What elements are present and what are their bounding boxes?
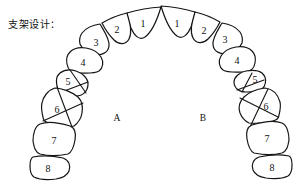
left-tooth-5-label: 5 <box>66 76 71 87</box>
left-tooth-3-label: 3 <box>94 37 99 48</box>
right-quadrant <box>161 6 292 179</box>
side-label-a: A <box>114 113 121 123</box>
right-tooth-5-label: 5 <box>253 74 258 85</box>
left-tooth-4-label: 4 <box>81 57 86 68</box>
right-tooth-1-label: 1 <box>175 18 180 29</box>
left-quadrant <box>30 7 161 180</box>
right-tooth-4-label: 4 <box>235 55 240 66</box>
right-tooth-8-label: 8 <box>270 162 275 173</box>
left-tooth-6-label: 6 <box>55 104 60 115</box>
dental-arch-diagram: 1 2 3 4 5 6 7 8 1 2 3 4 5 6 7 8 A B <box>0 0 303 192</box>
right-tooth-7-label: 7 <box>265 133 270 144</box>
left-tooth-1-label: 1 <box>141 18 146 29</box>
right-tooth-6-label: 6 <box>264 101 269 112</box>
left-tooth-7-label: 7 <box>52 135 57 146</box>
right-tooth-2-label: 2 <box>202 25 207 36</box>
right-tooth-3-label: 3 <box>223 34 228 45</box>
left-tooth-2-label: 2 <box>115 24 120 35</box>
left-tooth-8-label: 8 <box>46 163 51 174</box>
side-label-b: B <box>200 113 206 123</box>
